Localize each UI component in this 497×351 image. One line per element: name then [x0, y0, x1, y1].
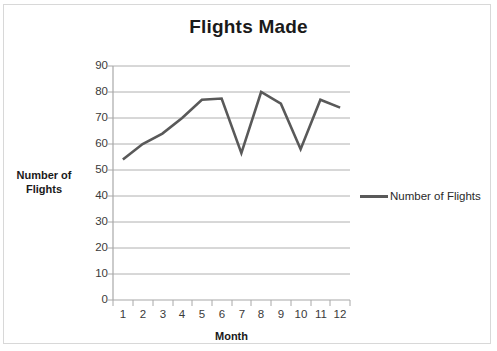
chart-svg	[0, 0, 497, 351]
gridlines	[113, 66, 350, 274]
x-axis-ticks	[113, 300, 350, 306]
x-axis-title: Month	[113, 330, 350, 342]
x-tick-label: 12	[328, 308, 352, 320]
axis-lines	[113, 66, 350, 300]
chart-screenshot: Flights Made Number of Flights 90 80 70 …	[0, 0, 497, 351]
legend-label: Number of Flights	[390, 190, 481, 202]
plot-area	[0, 0, 497, 351]
chart-legend: Number of Flights	[360, 190, 481, 202]
y-axis-ticks	[107, 66, 113, 300]
legend-line-swatch	[360, 195, 388, 198]
data-series-line	[123, 92, 340, 160]
